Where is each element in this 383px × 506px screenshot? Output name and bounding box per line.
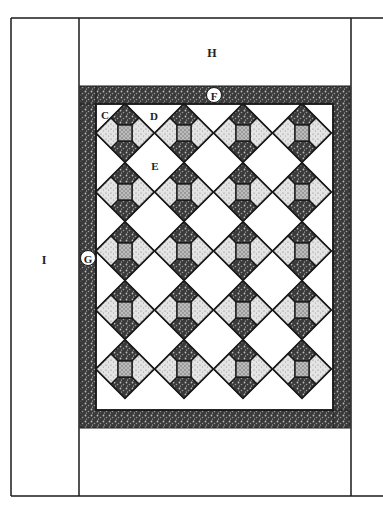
label-e: E [151,160,158,172]
label-f: F [211,90,218,102]
label-i: I [42,253,47,267]
label-g-badge: G [81,251,96,266]
label-g: G [84,253,93,265]
label-h: H [207,46,217,60]
label-d: D [150,110,158,122]
label-f-badge: F [207,88,222,103]
label-c: C [101,109,109,121]
quilt-diagram: H I F G C D E [0,0,383,506]
